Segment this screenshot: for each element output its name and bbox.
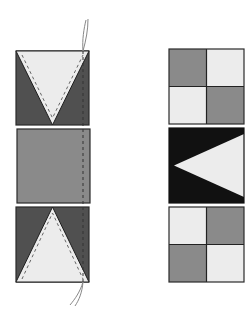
top-four-patch	[169, 49, 244, 124]
bottom-four-patch	[169, 207, 244, 282]
middle-square-block	[17, 129, 90, 203]
thread-tail-bottom	[70, 282, 83, 306]
left-column	[16, 19, 90, 306]
bottom-v-block	[16, 207, 89, 282]
flying-geese-block	[169, 128, 244, 203]
quilt-diagram	[0, 0, 251, 326]
thread-tail-top	[83, 19, 88, 51]
top-v-block	[16, 51, 89, 125]
right-column	[169, 49, 244, 282]
